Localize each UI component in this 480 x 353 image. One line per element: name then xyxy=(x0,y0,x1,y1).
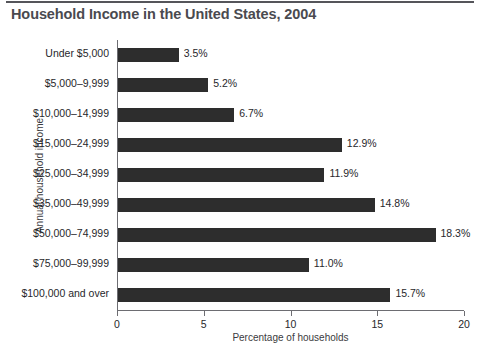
x-axis-title: Percentage of households xyxy=(117,332,464,343)
bar-value-label: 3.5% xyxy=(184,47,208,59)
bar xyxy=(118,138,342,152)
category-label: $100,000 and over xyxy=(0,287,109,299)
x-tick xyxy=(117,311,118,316)
bar xyxy=(118,168,324,182)
bar xyxy=(118,258,309,272)
bar xyxy=(118,198,375,212)
bar-row: $15,000–24,99912.9% xyxy=(118,130,464,160)
category-label: $5,000–9,999 xyxy=(0,77,109,89)
bar-value-label: 6.7% xyxy=(239,107,263,119)
bar-row: $10,000–14,9996.7% xyxy=(118,100,464,130)
bar-value-label: 15.7% xyxy=(395,287,425,299)
bar-row: $25,000–34,99911.9% xyxy=(118,160,464,190)
category-label: $15,000–24,999 xyxy=(0,137,109,149)
page-top-rule xyxy=(6,1,474,3)
plot-area: Under $5,0003.5%$5,000–9,9995.2%$10,000–… xyxy=(117,40,464,310)
x-tick xyxy=(464,311,465,316)
bar-row: $100,000 and over15.7% xyxy=(118,280,464,310)
chart-title: Household Income in the United States, 2… xyxy=(11,6,316,22)
x-tick-label: 0 xyxy=(114,318,120,330)
bar-value-label: 11.0% xyxy=(314,257,343,269)
x-tick xyxy=(291,311,292,316)
category-label: $35,000–49,999 xyxy=(0,197,109,209)
bar xyxy=(118,228,436,242)
bar xyxy=(118,78,208,92)
x-tick xyxy=(204,311,205,316)
x-tick xyxy=(377,311,378,316)
bar-value-label: 11.9% xyxy=(329,167,358,179)
bar xyxy=(118,288,390,302)
category-label: Under $5,000 xyxy=(0,47,109,59)
bar-row: $35,000–49,99914.8% xyxy=(118,190,464,220)
category-label: $25,000–34,999 xyxy=(0,167,109,179)
bar-row: Under $5,0003.5% xyxy=(118,40,464,70)
x-tick-label: 10 xyxy=(285,318,297,330)
bar-value-label: 5.2% xyxy=(213,77,237,89)
bar-row: $5,000–9,9995.2% xyxy=(118,70,464,100)
x-tick-label: 20 xyxy=(458,318,470,330)
bar-value-label: 12.9% xyxy=(347,137,377,149)
category-label: $75,000–99,999 xyxy=(0,257,109,269)
bar-value-label: 18.3% xyxy=(441,227,471,239)
x-tick-label: 5 xyxy=(201,318,207,330)
bar-row: $50,000–74,99918.3% xyxy=(118,220,464,250)
bar xyxy=(118,48,179,62)
bar-row: $75,000–99,99911.0% xyxy=(118,250,464,280)
category-label: $10,000–14,999 xyxy=(0,107,109,119)
category-label: $50,000–74,999 xyxy=(0,227,109,239)
chart-figure: Household Income in the United States, 2… xyxy=(0,0,480,353)
x-tick-label: 15 xyxy=(371,318,383,330)
bar xyxy=(118,108,234,122)
bar-value-label: 14.8% xyxy=(380,197,410,209)
